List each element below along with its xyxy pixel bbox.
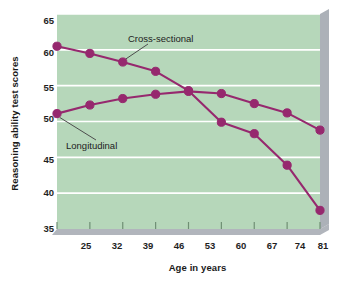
data-point [217,89,225,97]
data-point [53,110,61,118]
data-point [53,42,61,50]
data-point [86,101,94,109]
data-point [316,206,324,214]
plot-shadow-right [320,9,329,229]
series-annotation-longitudinal: Longitudinal [66,140,117,151]
chart-figure: Reasoning ability test scores 65 60 55 5… [0,0,351,285]
data-point [119,58,127,66]
data-point [86,49,94,57]
data-point [316,126,324,134]
data-point [152,90,160,98]
data-point [217,118,225,126]
data-point [250,130,258,138]
series-annotation-cross-sectional: Cross-sectional [128,33,193,44]
data-point [250,99,258,107]
data-point [283,161,291,169]
data-point [283,109,291,117]
data-point [184,87,192,95]
data-point [152,67,160,75]
data-point [119,94,127,102]
